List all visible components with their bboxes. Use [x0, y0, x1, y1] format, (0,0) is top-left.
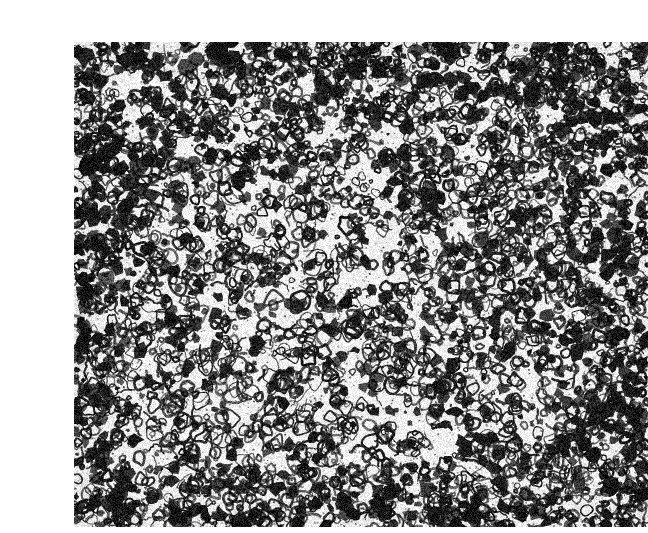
micrograph-figure [74, 42, 648, 527]
micrograph-image [74, 42, 648, 527]
